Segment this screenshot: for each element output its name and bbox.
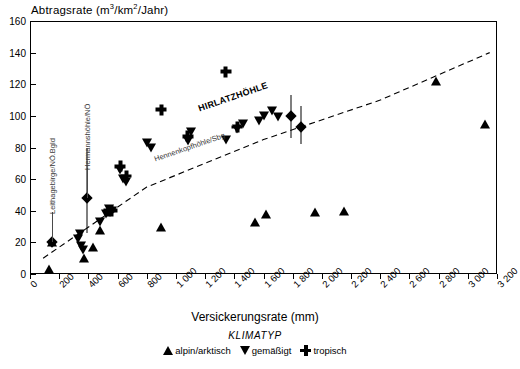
data-point-triangle-up — [95, 225, 105, 234]
data-point-triangle-up — [480, 119, 490, 128]
y-tick-label: 80 — [0, 142, 26, 153]
annotation-label: Leithagebirge/NÖ.Bgld — [48, 138, 57, 214]
data-point-plus — [232, 121, 243, 132]
data-point-triangle-up — [310, 208, 320, 217]
data-point-plus — [106, 205, 117, 216]
data-point-triangle-up — [88, 243, 98, 252]
legend-title: KLIMATYP — [0, 330, 510, 341]
chart-title: Abtragsrate (m3/km2/Jahr) — [31, 2, 168, 16]
legend-entry: tropisch — [300, 345, 346, 356]
legend-symbol-plus — [300, 345, 311, 356]
legend-symbol-triangle-up — [163, 346, 173, 355]
data-point-triangle-up — [339, 206, 349, 215]
data-point-triangle-down — [78, 246, 88, 255]
y-tick-mark — [30, 211, 36, 212]
y-tick-label: 20 — [0, 237, 26, 248]
data-point-triangle-down — [95, 217, 105, 226]
y-tick-mark — [30, 53, 36, 54]
legend-label: tropisch — [313, 345, 346, 356]
plot-area — [30, 21, 497, 274]
y-tick-label: 160 — [0, 16, 26, 27]
x-tick-label: 0 — [28, 278, 40, 290]
data-point-triangle-up — [250, 217, 260, 226]
legend: alpin/arktischgemäßigttropisch — [0, 345, 510, 356]
legend-label: alpin/arktisch — [175, 345, 230, 356]
annotation-leader-line — [52, 212, 53, 242]
data-point-triangle-down — [273, 113, 283, 122]
y-tick-label: 100 — [0, 110, 26, 121]
data-point-triangle-up — [79, 254, 89, 263]
y-tick-mark — [30, 179, 36, 180]
data-point-plus — [121, 170, 132, 181]
y-tick-mark — [30, 21, 36, 22]
data-point-triangle-up — [156, 222, 166, 231]
legend-symbol-triangle-down — [240, 346, 250, 355]
y-tick-label: 0 — [0, 269, 26, 280]
y-tick-mark — [30, 242, 36, 243]
chart-title-end: /Jahr) — [138, 4, 169, 16]
y-tick-label: 140 — [0, 47, 26, 58]
legend-entry: alpin/arktisch — [163, 345, 230, 356]
data-point-plus — [220, 66, 231, 77]
y-tick-mark — [30, 148, 36, 149]
annotation-leader-line — [87, 168, 88, 198]
data-point-triangle-down — [146, 143, 156, 152]
data-point-triangle-up — [44, 265, 54, 274]
data-point-triangle-down — [75, 230, 85, 239]
legend-label: gemäßigt — [252, 345, 292, 356]
x-axis-title: Versickerungsrate (mm) — [0, 310, 510, 324]
annotation-label: Hermannshöhle/NÖ — [83, 104, 92, 170]
data-point-plus — [182, 131, 193, 142]
data-point-triangle-up — [431, 77, 441, 86]
chart-title-mid: /km — [114, 4, 133, 16]
chart-title-main: Abtragsrate (m — [31, 4, 110, 16]
data-point-plus — [156, 104, 167, 115]
y-tick-mark — [30, 116, 36, 117]
data-point-triangle-up — [261, 209, 271, 218]
y-tick-label: 60 — [0, 174, 26, 185]
legend-entry: gemäßigt — [240, 345, 292, 356]
y-tick-label: 40 — [0, 205, 26, 216]
y-tick-mark — [30, 84, 36, 85]
y-tick-label: 120 — [0, 79, 26, 90]
x-tick-label: 3 200 — [495, 265, 520, 290]
